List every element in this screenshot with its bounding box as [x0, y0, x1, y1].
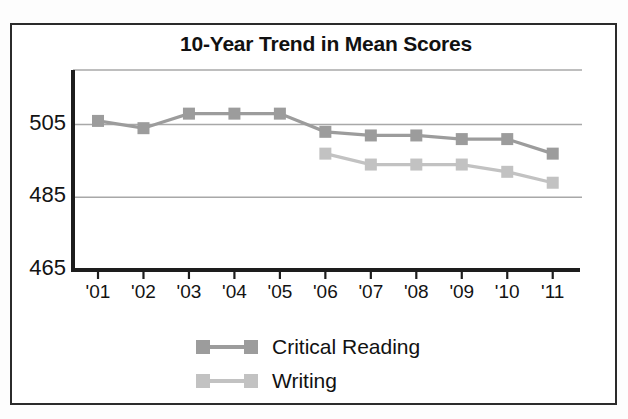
data-point-marker	[183, 108, 195, 120]
x-axis-tick-label: '03	[166, 281, 212, 303]
data-point-marker	[410, 129, 422, 141]
legend-swatch-writing	[196, 374, 258, 388]
data-point-marker	[365, 159, 377, 171]
x-axis-tick-label: '07	[348, 281, 394, 303]
legend-swatch-critical-reading	[196, 340, 258, 354]
data-point-marker	[365, 129, 377, 141]
data-point-marker	[501, 166, 513, 178]
legend-marker-left-critical-reading	[196, 340, 210, 354]
x-axis-tick-label: '01	[75, 281, 121, 303]
data-point-marker	[274, 108, 286, 120]
data-point-marker	[456, 133, 468, 145]
data-point-marker	[456, 159, 468, 171]
x-axis-tick-label: '08	[393, 281, 439, 303]
data-point-marker	[547, 148, 559, 160]
x-axis-tick-label: '11	[530, 281, 576, 303]
legend-label-critical-reading: Critical Reading	[272, 335, 420, 359]
series-line-1	[325, 154, 552, 183]
data-point-marker	[319, 126, 331, 138]
x-axis-tick-label: '04	[211, 281, 257, 303]
legend-label-writing: Writing	[272, 369, 337, 393]
legend-marker-left-writing	[196, 374, 210, 388]
data-point-marker	[137, 122, 149, 134]
y-axis-tick-label: 505	[6, 110, 66, 136]
x-axis-tick-label: '05	[257, 281, 303, 303]
data-point-marker	[92, 115, 104, 127]
data-point-marker	[319, 148, 331, 160]
legend-item-writing: Writing	[196, 364, 496, 398]
x-axis-tick-label: '02	[120, 281, 166, 303]
data-point-marker	[410, 159, 422, 171]
data-point-marker	[547, 177, 559, 189]
x-axis-tick-label: '06	[302, 281, 348, 303]
legend-item-critical-reading: Critical Reading	[196, 330, 496, 364]
data-point-marker	[501, 133, 513, 145]
data-series-group	[92, 108, 559, 189]
legend-marker-right-writing	[244, 374, 258, 388]
data-point-marker	[228, 108, 240, 120]
legend-marker-right-critical-reading	[244, 340, 258, 354]
y-axis-tick-label: 465	[6, 255, 66, 281]
chart-screenshot: 10-Year Trend in Mean Scores 465485505 '…	[0, 0, 628, 419]
y-axis-tick-label: 485	[6, 182, 66, 208]
x-axis-tick-label: '09	[439, 281, 485, 303]
x-axis-tick-label: '10	[484, 281, 530, 303]
chart-legend: Critical Reading Writing	[196, 330, 496, 398]
